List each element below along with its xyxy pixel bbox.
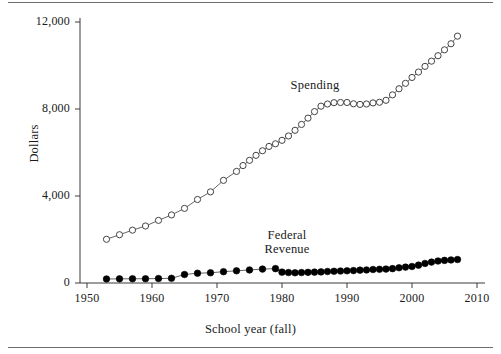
y-axis-tick-label: 12,000 xyxy=(8,14,70,29)
x-axis-tick-label: 2000 xyxy=(382,291,442,306)
y-axis-tick-label: 0 xyxy=(8,275,70,290)
y-axis-tick-label: 4,000 xyxy=(8,188,70,203)
x-axis-tick-label: 1990 xyxy=(317,291,377,306)
y-axis-tick-label: 8,000 xyxy=(8,101,70,116)
series-label-spending: Spending xyxy=(272,78,358,92)
x-axis-tick-label: 1980 xyxy=(252,291,312,306)
x-axis-title: School year (fall) xyxy=(0,322,501,337)
x-axis-tick-label: 2010 xyxy=(447,291,501,306)
x-axis-tick-label: 1970 xyxy=(187,291,247,306)
x-axis-tick-label: 1960 xyxy=(122,291,182,306)
figure-panel: Dollars School year (fall) Spending Fede… xyxy=(0,0,501,354)
series-label-federal-revenue: Federal Revenue xyxy=(238,228,336,257)
x-axis-tick-label: 1950 xyxy=(57,291,117,306)
